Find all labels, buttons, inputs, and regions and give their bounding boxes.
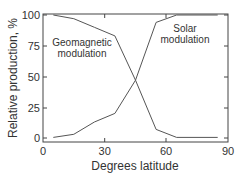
x-ticks — [105, 14, 166, 142]
x-tick-30: 30 — [99, 145, 111, 157]
y-tick-50: 50 — [28, 71, 40, 83]
y-axis-label: Relative production, % — [6, 18, 20, 138]
x-axis-label: Degrees latitude — [91, 159, 179, 173]
geomagnetic-annotation-line2: modulation — [58, 48, 107, 59]
x-tick-90: 90 — [222, 145, 234, 157]
y-tick-100: 100 — [22, 9, 40, 21]
solar-annotation-line2: modulation — [161, 34, 210, 45]
y-tick-75: 75 — [28, 40, 40, 52]
x-tick-60: 60 — [160, 145, 172, 157]
y-tick-0: 0 — [34, 132, 40, 144]
y-tick-25: 25 — [28, 102, 40, 114]
geomagnetic-annotation-line1: Geomagnetic — [52, 37, 111, 48]
chart: 100 75 50 25 0 0 30 60 90 Degrees latitu… — [0, 0, 243, 179]
x-tick-0: 0 — [40, 145, 46, 157]
solar-annotation-line1: Solar — [173, 23, 197, 34]
